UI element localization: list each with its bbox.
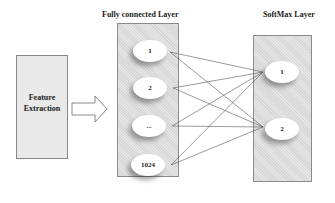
fc-node: ... <box>132 115 166 137</box>
fc-node: 2 <box>133 77 167 99</box>
fc-node: 1 <box>133 40 167 62</box>
connection-lines <box>0 0 335 203</box>
fc-node: 1024 <box>131 154 165 176</box>
softmax-node: 1 <box>265 61 299 83</box>
softmax-node: 2 <box>265 118 299 140</box>
